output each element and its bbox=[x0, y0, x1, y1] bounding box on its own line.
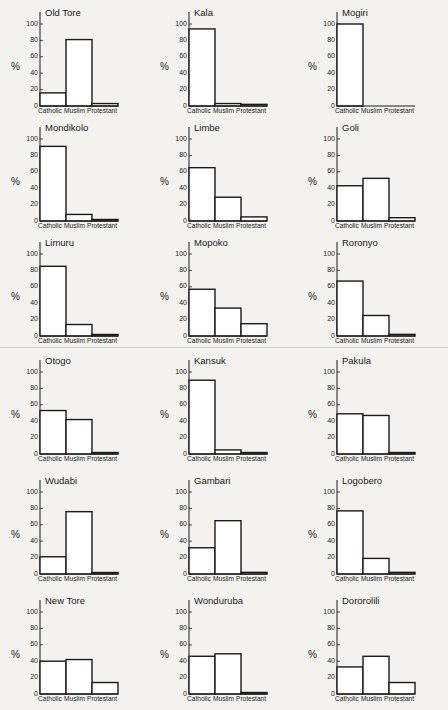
y-tick-label: 60 bbox=[171, 167, 187, 174]
y-tick-label: 20 bbox=[22, 315, 38, 322]
bar-chart-kansuk: Kansuk%020406080100CatholicMuslimProtest… bbox=[155, 350, 305, 465]
y-tick-label: 0 bbox=[171, 332, 187, 339]
y-tick-label: 80 bbox=[22, 266, 38, 273]
bar-catholic bbox=[337, 281, 363, 336]
bar-chart-mopoko: Mopoko%020406080100CatholicMuslimProtest… bbox=[155, 232, 305, 347]
bar-catholic bbox=[40, 93, 66, 106]
bar-catholic bbox=[189, 289, 215, 336]
y-tick-label: 60 bbox=[319, 520, 335, 527]
x-category-label: Protestant bbox=[384, 695, 414, 702]
x-category-label: Catholic bbox=[187, 337, 211, 344]
y-tick-label: 40 bbox=[319, 537, 335, 544]
y-tick-label: 100 bbox=[319, 368, 335, 375]
x-category-label: Muslim bbox=[361, 337, 382, 344]
y-tick-label: 80 bbox=[171, 266, 187, 273]
y-tick-label: 60 bbox=[319, 282, 335, 289]
y-tick-label: 80 bbox=[171, 624, 187, 631]
y-tick-label: 20 bbox=[171, 553, 187, 560]
y-tick-label: 20 bbox=[319, 673, 335, 680]
x-category-label: Catholic bbox=[335, 222, 359, 229]
y-tick-label: 0 bbox=[319, 570, 335, 577]
y-tick-label: 40 bbox=[171, 184, 187, 191]
chart-title: New Tore bbox=[45, 595, 85, 606]
y-tick-label: 0 bbox=[319, 332, 335, 339]
y-tick-label: 80 bbox=[171, 384, 187, 391]
y-tick-label: 100 bbox=[22, 20, 38, 27]
y-tick-label: 60 bbox=[319, 52, 335, 59]
y-tick-label: 20 bbox=[171, 315, 187, 322]
y-tick-label: 40 bbox=[319, 657, 335, 664]
x-category-label: Muslim bbox=[213, 575, 234, 582]
y-tick-label: 80 bbox=[319, 624, 335, 631]
bar-catholic bbox=[337, 414, 363, 454]
y-tick-label: 40 bbox=[319, 69, 335, 76]
x-category-label: Protestant bbox=[236, 575, 266, 582]
y-axis-label: % bbox=[160, 649, 169, 660]
x-category-label: Catholic bbox=[38, 107, 62, 114]
y-tick-label: 80 bbox=[319, 266, 335, 273]
y-axis-label: % bbox=[11, 291, 20, 302]
y-tick-label: 20 bbox=[319, 315, 335, 322]
y-tick-label: 60 bbox=[22, 167, 38, 174]
x-category-label: Catholic bbox=[187, 455, 211, 462]
x-category-label: Protestant bbox=[384, 337, 414, 344]
bar-muslim bbox=[363, 316, 389, 337]
y-tick-label: 20 bbox=[22, 433, 38, 440]
x-category-label: Catholic bbox=[335, 455, 359, 462]
y-tick-label: 100 bbox=[171, 250, 187, 257]
y-axis-label: % bbox=[308, 649, 317, 660]
y-tick-label: 0 bbox=[22, 570, 38, 577]
y-tick-label: 40 bbox=[171, 657, 187, 664]
bar-muslim bbox=[66, 325, 92, 336]
y-axis-label: % bbox=[308, 291, 317, 302]
x-category-label: Protestant bbox=[384, 222, 414, 229]
bar-muslim bbox=[215, 450, 241, 454]
bar-chart-kala: Kala%020406080100CatholicMuslimProtestan… bbox=[155, 2, 305, 117]
y-tick-label: 60 bbox=[22, 640, 38, 647]
page-divider bbox=[0, 347, 448, 348]
y-tick-label: 40 bbox=[171, 417, 187, 424]
y-tick-label: 0 bbox=[22, 102, 38, 109]
bar-catholic bbox=[40, 146, 66, 221]
y-tick-label: 60 bbox=[22, 52, 38, 59]
bar-catholic bbox=[189, 168, 215, 221]
bar-muslim bbox=[363, 415, 389, 454]
x-category-label: Muslim bbox=[361, 575, 382, 582]
y-tick-label: 40 bbox=[22, 417, 38, 424]
y-tick-label: 100 bbox=[22, 250, 38, 257]
bar-chart-roronyo: Roronyo%020406080100CatholicMuslimProtes… bbox=[303, 232, 448, 347]
bar-chart-wonduruba: Wonduruba%020406080100CatholicMuslimProt… bbox=[155, 590, 305, 705]
y-tick-label: 0 bbox=[22, 690, 38, 697]
y-tick-label: 20 bbox=[22, 200, 38, 207]
y-tick-label: 60 bbox=[171, 52, 187, 59]
y-tick-label: 40 bbox=[22, 657, 38, 664]
y-axis-label: % bbox=[308, 529, 317, 540]
x-category-label: Muslim bbox=[64, 337, 85, 344]
bar-chart-old-tore: Old Tore%020406080100CatholicMuslimProte… bbox=[6, 2, 156, 117]
y-tick-label: 80 bbox=[22, 624, 38, 631]
y-tick-label: 80 bbox=[319, 151, 335, 158]
y-tick-label: 80 bbox=[319, 36, 335, 43]
bar-chart-new-tore: New Tore%020406080100CatholicMuslimProte… bbox=[6, 590, 156, 705]
y-axis-label: % bbox=[308, 61, 317, 72]
y-tick-label: 100 bbox=[319, 250, 335, 257]
y-tick-label: 20 bbox=[171, 673, 187, 680]
y-tick-label: 60 bbox=[319, 400, 335, 407]
y-tick-label: 100 bbox=[171, 135, 187, 142]
bar-chart-logobero: Logobero%020406080100CatholicMuslimProte… bbox=[303, 470, 448, 585]
y-axis-label: % bbox=[160, 176, 169, 187]
bar-muslim bbox=[215, 197, 241, 221]
chart-title: Kala bbox=[194, 7, 213, 18]
y-tick-label: 20 bbox=[171, 85, 187, 92]
bar-chart-gambari: Gambari%020406080100CatholicMuslimProtes… bbox=[155, 470, 305, 585]
chart-title: Gambari bbox=[194, 475, 230, 486]
y-tick-label: 20 bbox=[171, 433, 187, 440]
y-tick-label: 0 bbox=[22, 332, 38, 339]
y-tick-label: 0 bbox=[171, 102, 187, 109]
bar-catholic bbox=[337, 24, 363, 106]
x-category-label: Protestant bbox=[87, 107, 117, 114]
chart-title: Wudabi bbox=[45, 475, 77, 486]
x-category-label: Catholic bbox=[38, 222, 62, 229]
y-tick-label: 100 bbox=[319, 135, 335, 142]
y-tick-label: 20 bbox=[22, 673, 38, 680]
